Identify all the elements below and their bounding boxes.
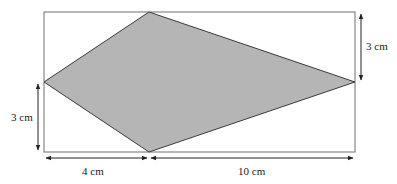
kite-diagram: 3 cm 3 cm 4 cm 10 cm bbox=[0, 0, 397, 184]
kite-shape bbox=[44, 12, 355, 152]
bottom-right-width-label: 10 cm bbox=[238, 165, 266, 177]
left-height-label: 3 cm bbox=[11, 111, 33, 123]
right-height-label: 3 cm bbox=[366, 40, 388, 52]
bottom-left-width-label: 4 cm bbox=[82, 165, 104, 177]
